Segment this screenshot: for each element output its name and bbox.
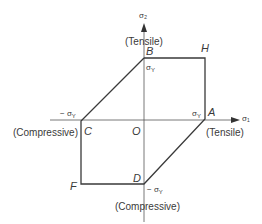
sigma-y-vertical-label: σY <box>146 63 155 73</box>
sigma-y-horizontal-label: σY <box>192 109 201 119</box>
sigma1-label: σ₁ <box>242 114 250 123</box>
yield-locus-hexagon <box>81 58 205 184</box>
point-d-label: D <box>133 172 141 184</box>
origin-label: O <box>132 125 141 137</box>
left-compressive-label: (Compressive) <box>13 127 78 138</box>
point-c-label: C <box>84 125 92 137</box>
sigma2-arrow-icon <box>141 23 147 32</box>
neg-sigma-y-vertical-label: − σY <box>147 185 163 195</box>
yield-locus-diagram: σ₂ (Tensile) σ₁ (Tensile) (Compressive) … <box>0 0 262 224</box>
neg-sigma-y-horizontal-label: − σY <box>60 109 76 119</box>
top-tensile-label: (Tensile) <box>125 36 163 47</box>
sigma1-arrow-icon <box>231 117 240 123</box>
bottom-compressive-label: (Compressive) <box>115 201 180 212</box>
point-f-label: F <box>70 180 78 192</box>
sigma2-label: σ₂ <box>139 11 147 20</box>
point-b-label: B <box>146 45 153 57</box>
right-tensile-label: (Tensile) <box>206 127 244 138</box>
point-a-label: A <box>207 106 215 118</box>
point-h-label: H <box>201 42 209 54</box>
